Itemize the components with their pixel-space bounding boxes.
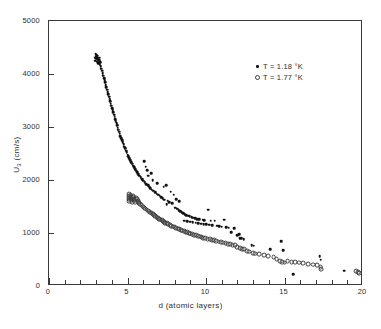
y-axis-title-symbol: U xyxy=(12,167,21,173)
legend-label: T = 1.77 °K xyxy=(262,72,303,83)
y-tick-label: 3000 xyxy=(0,122,44,131)
x-tick-label: 0 xyxy=(46,287,50,296)
data-point xyxy=(357,271,361,276)
y-tick-label: 5000 xyxy=(0,16,44,25)
figure-container: 010002000300040005000 U3 (cm/s) 05101520… xyxy=(0,0,381,329)
legend-label: T = 1.18 °K xyxy=(262,61,303,72)
open-circle-icon xyxy=(253,75,262,80)
x-tick-label: 15 xyxy=(279,287,288,296)
y-axis-title-subscript: 3 xyxy=(16,163,22,167)
y-axis-title: U3 (cm/s) xyxy=(12,110,21,200)
data-point xyxy=(319,267,324,272)
y-tick-label: 1000 xyxy=(0,228,44,237)
plot-area xyxy=(48,20,362,285)
y-tick-label: 2000 xyxy=(0,175,44,184)
legend-item: T = 1.18 °K xyxy=(253,61,303,72)
y-tick-label: 4000 xyxy=(0,69,44,78)
y-axis-title-unit: (cm/s) xyxy=(12,137,21,164)
y-tick-label: 0 xyxy=(0,281,44,290)
x-tick-label: 10 xyxy=(201,287,210,296)
y-axis-tick-labels: 010002000300040005000 xyxy=(0,0,44,329)
legend-item: T = 1.77 °K xyxy=(253,72,303,83)
data-series-open xyxy=(49,21,361,284)
legend: T = 1.18 °KT = 1.77 °K xyxy=(253,61,303,83)
x-tick-label: 5 xyxy=(124,287,128,296)
data-point xyxy=(266,254,271,259)
x-tick-label: 20 xyxy=(358,287,367,296)
filled-dot-icon xyxy=(253,65,262,68)
x-axis-title: d (atomic layers) xyxy=(0,301,381,310)
